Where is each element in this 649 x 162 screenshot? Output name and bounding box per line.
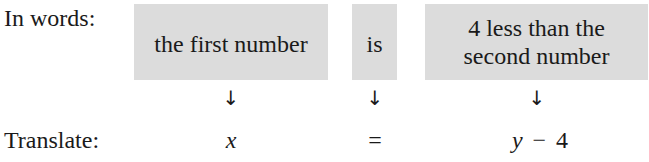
phrase-box-is: is — [352, 4, 397, 80]
phrase-text: is — [366, 30, 382, 58]
math-equals: = — [360, 128, 390, 152]
arrow-down-icon: ↓ — [360, 86, 390, 110]
translate-label: Translate: — [4, 128, 99, 152]
math-y: y — [512, 127, 523, 153]
phrase-text-line2: second number — [464, 42, 610, 70]
phrase-box-first-number: the first number — [134, 4, 328, 80]
phrase-box-less-than: 4 less than the second number — [425, 4, 648, 80]
math-expression: y − 4 — [480, 128, 600, 152]
math-x: x — [216, 128, 246, 152]
arrow-down-icon: ↓ — [522, 86, 552, 110]
math-four: 4 — [556, 127, 568, 153]
in-words-label: In words: — [4, 6, 95, 30]
phrase-text: the first number — [154, 30, 307, 58]
arrow-down-icon: ↓ — [216, 86, 246, 110]
phrase-text-line1: 4 less than the — [468, 14, 605, 42]
math-minus: − — [533, 127, 547, 153]
